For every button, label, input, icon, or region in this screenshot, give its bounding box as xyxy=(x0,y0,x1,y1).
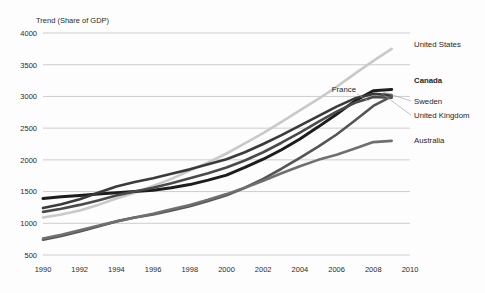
x-tick-label: 1990 xyxy=(35,265,52,274)
y-tick-label: 1500 xyxy=(20,187,37,196)
y-tick-label: 2500 xyxy=(20,124,37,133)
chart-screenshot: 4000350030002500200015001000500 19901992… xyxy=(0,0,485,293)
series-label-sweden: Sweden xyxy=(414,97,442,106)
y-tick-label: 3000 xyxy=(20,92,37,101)
trend-share-of-gdp-chart: 4000350030002500200015001000500 19901992… xyxy=(0,0,485,293)
x-tick-label: 2006 xyxy=(328,265,345,274)
series-label-australia: Australia xyxy=(414,136,445,145)
x-tick-label: 1996 xyxy=(145,265,162,274)
y-tick-label: 3500 xyxy=(20,61,37,70)
series-label-canada: Canada xyxy=(414,76,443,85)
x-tick-label: 1998 xyxy=(181,265,198,274)
x-tick-label: 2002 xyxy=(255,265,272,274)
inline-annotations-group: France xyxy=(332,85,356,94)
x-tick-label: 2008 xyxy=(365,265,382,274)
x-tick-label: 1992 xyxy=(71,265,88,274)
x-tick-label: 2010 xyxy=(402,265,419,274)
y-tick-label: 1000 xyxy=(20,219,37,228)
y-tick-label: 500 xyxy=(24,251,37,260)
series-label-united-states: United States xyxy=(414,40,461,49)
annotation-france: France xyxy=(332,85,356,94)
chart-background xyxy=(0,0,485,293)
x-tick-label: 1994 xyxy=(108,265,125,274)
x-tick-label: 2004 xyxy=(292,265,309,274)
x-tick-label: 2000 xyxy=(218,265,235,274)
series-label-united-kingdom: United Kingdom xyxy=(414,111,469,120)
y-tick-label: 2000 xyxy=(20,156,37,165)
y-tick-label: 4000 xyxy=(20,29,37,38)
chart-title: Trend (Share of GDP) xyxy=(36,16,110,25)
